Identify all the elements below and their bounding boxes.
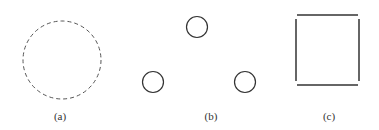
label-a: (a)	[45, 110, 75, 122]
circle-bottom-right	[235, 72, 256, 93]
figure-c-square-segments	[296, 15, 359, 85]
label-b: (b)	[196, 110, 226, 122]
label-c: (c)	[314, 110, 344, 122]
figure-b-three-circles	[143, 17, 256, 93]
figure-a-dashed-circle	[23, 21, 101, 99]
circle-top	[187, 17, 208, 38]
circle-bottom-left	[143, 72, 164, 93]
